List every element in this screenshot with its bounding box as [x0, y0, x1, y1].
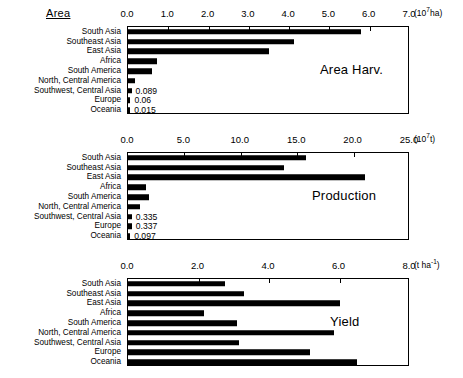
- x-tick-label: 4.0: [261, 260, 274, 271]
- bar: [128, 340, 239, 346]
- category-label: South America: [68, 66, 121, 75]
- bar-value-label: 0.335: [136, 212, 158, 222]
- bar: [128, 29, 361, 35]
- category-label: Africa: [100, 182, 121, 191]
- category-axis-labels: South AsiaSoutheast AsiaEast AsiaAfricaS…: [0, 152, 124, 240]
- category-label: Europe: [95, 221, 121, 230]
- bar: [128, 39, 294, 45]
- category-label: East Asia: [87, 172, 121, 181]
- panel-caption: Yield: [330, 314, 359, 329]
- category-label: South Asia: [82, 26, 121, 35]
- category-label: Europe: [95, 347, 121, 356]
- category-label: South America: [68, 192, 121, 201]
- bar: [128, 165, 284, 171]
- category-label: East Asia: [87, 298, 121, 307]
- x-tick-label: 5.0: [177, 134, 190, 145]
- bar-value-label: 0.06: [134, 95, 151, 105]
- category-label: Southwest, Central Asia: [34, 211, 121, 220]
- x-tick-label: 6.0: [362, 8, 375, 19]
- unit-tail: ha): [430, 8, 442, 18]
- x-tick-label: 4.0: [282, 8, 295, 19]
- bar-value-label: 0.337: [136, 221, 158, 231]
- bar: [128, 281, 225, 287]
- bar: [128, 194, 149, 200]
- unit-tail: ): [437, 260, 440, 270]
- bar: [128, 68, 152, 74]
- category-label: Southeast Asia: [66, 288, 121, 297]
- unit-base: (t ha: [414, 260, 431, 270]
- chart-panel: 0.02.04.06.08.0(t ha-1)South AsiaSouthea…: [0, 252, 463, 378]
- bar: [128, 155, 306, 161]
- bar: [128, 49, 269, 55]
- bar: [128, 78, 135, 84]
- x-axis-unit-label: (t ha-1): [414, 260, 440, 270]
- panel-caption: Production: [312, 188, 376, 203]
- x-tick-label: 0.0: [120, 8, 133, 19]
- category-label: South Asia: [82, 152, 121, 161]
- x-axis-tick-labels: 0.02.04.06.08.0(t ha-1): [0, 260, 463, 274]
- unit-base: (10: [414, 134, 426, 144]
- bar: [128, 107, 130, 113]
- figure-root: Area0.01.02.03.04.05.06.07.0(107ha)South…: [0, 0, 463, 378]
- x-tick-label: 1.0: [161, 8, 174, 19]
- category-label: Southwest, Central Asia: [34, 85, 121, 94]
- category-label: North, Central America: [38, 327, 121, 336]
- category-label: Southeast Asia: [66, 162, 121, 171]
- category-label: Oceania: [91, 357, 122, 366]
- category-label: Southwest, Central Asia: [34, 337, 121, 346]
- chart-panel: Area0.01.02.03.04.05.06.07.0(107ha)South…: [0, 0, 463, 126]
- unit-tail: t): [430, 134, 435, 144]
- x-axis-unit-label: (107t): [414, 134, 435, 144]
- bar: [128, 310, 204, 316]
- bar: [128, 330, 334, 336]
- category-label: South America: [68, 318, 121, 327]
- x-tick-label: 0.0: [120, 260, 133, 271]
- category-label: North, Central America: [38, 75, 121, 84]
- bar: [128, 291, 244, 297]
- x-axis-unit-label: (107ha): [414, 8, 442, 18]
- bar: [128, 184, 146, 190]
- category-label: Oceania: [91, 105, 122, 114]
- x-tick-label: 6.0: [332, 260, 345, 271]
- plot-area: [127, 278, 409, 366]
- x-tick-label: 3.0: [241, 8, 254, 19]
- bar: [128, 233, 130, 239]
- x-tick-label: 5.0: [322, 8, 335, 19]
- bar: [128, 350, 310, 356]
- x-tick-label: 10.0: [231, 134, 250, 145]
- bar: [128, 301, 340, 307]
- category-axis-labels: South AsiaSoutheast AsiaEast AsiaAfricaS…: [0, 278, 124, 366]
- x-tick-label: 15.0: [287, 134, 306, 145]
- bar: [128, 320, 237, 326]
- category-label: Africa: [100, 308, 121, 317]
- category-label: Europe: [95, 95, 121, 104]
- bar-series: [128, 279, 408, 365]
- x-tick-label: 20.0: [343, 134, 362, 145]
- bar: [128, 88, 132, 94]
- chart-panel: 0.05.010.015.020.025.0(107t)South AsiaSo…: [0, 126, 463, 252]
- bar-value-label: 0.015: [134, 105, 156, 115]
- category-label: North, Central America: [38, 201, 121, 210]
- category-label: Southeast Asia: [66, 36, 121, 45]
- bar: [128, 204, 140, 210]
- bar-value-label: 0.097: [134, 231, 156, 241]
- category-axis-labels: South AsiaSoutheast AsiaEast AsiaAfricaS…: [0, 26, 124, 114]
- bar: [128, 359, 357, 365]
- category-label: Oceania: [91, 231, 122, 240]
- bar: [128, 175, 365, 181]
- bar: [128, 224, 132, 230]
- x-axis-tick-labels: 0.01.02.03.04.05.06.07.0(107ha): [0, 8, 463, 22]
- bar: [128, 98, 130, 104]
- bar: [128, 58, 157, 64]
- category-label: South Asia: [82, 278, 121, 287]
- bar-value-label: 0.089: [136, 86, 158, 96]
- x-tick-label: 2.0: [191, 260, 204, 271]
- x-tick-label: 0.0: [120, 134, 133, 145]
- bar: [128, 214, 132, 220]
- unit-base: (10: [414, 8, 426, 18]
- category-label: East Asia: [87, 46, 121, 55]
- x-axis-tick-labels: 0.05.010.015.020.025.0(107t): [0, 134, 463, 148]
- x-tick-label: 2.0: [201, 8, 214, 19]
- category-label: Africa: [100, 56, 121, 65]
- panel-caption: Area Harv.: [320, 62, 383, 77]
